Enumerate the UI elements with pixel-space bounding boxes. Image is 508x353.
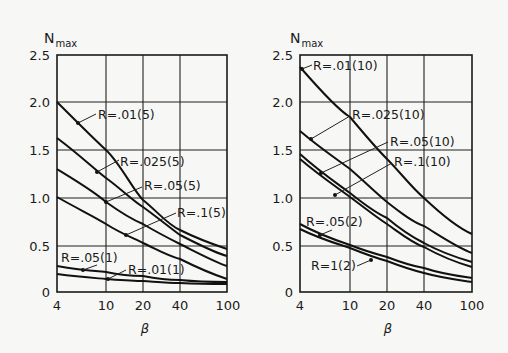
svg-text:2.0: 2.0 [29, 95, 50, 110]
label-r01-5: R=.01(5) [98, 107, 155, 122]
svg-text:100: 100 [216, 298, 241, 313]
svg-text:4: 4 [53, 298, 61, 313]
right-y-axis-title: Nmax [290, 30, 323, 49]
svg-text:0.5: 0.5 [29, 239, 50, 254]
right-x-ticks: 4 10 20 40 100 [296, 298, 485, 313]
svg-text:2.0: 2.0 [272, 95, 293, 110]
label-r05-1: R=.05(1) [61, 250, 118, 265]
label-r1-2: R=1(2) [311, 258, 356, 273]
svg-text:10: 10 [342, 298, 359, 313]
label-r05-5: R=.05(5) [144, 178, 201, 193]
svg-text:40: 40 [172, 298, 189, 313]
svg-text:0: 0 [42, 285, 50, 300]
right-panel: Nmax 2.5 2.0 1.5 1.0 0.5 0 4 10 20 40 10… [272, 30, 484, 336]
right-curves [300, 67, 472, 282]
svg-text:2.5: 2.5 [29, 48, 50, 63]
right-curve-labels: R=.01(10) R=.025(10) R=.05(10) R=.1(10) … [300, 58, 455, 273]
curve-r01-5 [57, 102, 227, 249]
svg-text:100: 100 [460, 298, 485, 313]
label-r025-5: R=.025(5) [120, 154, 185, 169]
right-x-axis-title: β [383, 321, 392, 336]
svg-text:4: 4 [296, 298, 304, 313]
svg-text:1.5: 1.5 [29, 143, 50, 158]
left-y-ticks: 2.5 2.0 1.5 1.0 0.5 0 [29, 48, 50, 300]
left-y-axis-title: Nmax [44, 30, 77, 49]
svg-text:0.5: 0.5 [272, 239, 293, 254]
svg-text:40: 40 [416, 298, 433, 313]
svg-text:20: 20 [135, 298, 152, 313]
label-r01-10: R=.01(10) [313, 58, 378, 73]
label-r01-1: R=.01(1) [128, 262, 185, 277]
svg-text:20: 20 [379, 298, 396, 313]
svg-text:1.0: 1.0 [29, 191, 50, 206]
label-r1-5: R=.1(5) [177, 205, 226, 220]
svg-text:1.5: 1.5 [272, 143, 293, 158]
svg-text:0: 0 [285, 285, 293, 300]
label-r1-10: R=.1(10) [394, 154, 451, 169]
label-r05-2: R=.05(2) [306, 214, 363, 229]
right-y-ticks: 2.5 2.0 1.5 1.0 0.5 0 [272, 48, 293, 300]
label-r025-10: R=.025(10) [352, 107, 425, 122]
label-r05-10: R=.05(10) [390, 134, 455, 149]
left-x-ticks: 4 10 20 40 100 [53, 298, 241, 313]
svg-text:2.5: 2.5 [272, 48, 293, 63]
svg-text:10: 10 [98, 298, 115, 313]
left-x-axis-title: β [140, 321, 149, 336]
curve-r025-10 [300, 131, 472, 253]
svg-text:1.0: 1.0 [272, 191, 293, 206]
left-panel: Nmax 2.5 2.0 1.5 1.0 0.5 0 4 10 20 40 [29, 30, 240, 336]
chart-figure: Nmax 2.5 2.0 1.5 1.0 0.5 0 4 10 20 40 [0, 0, 508, 353]
